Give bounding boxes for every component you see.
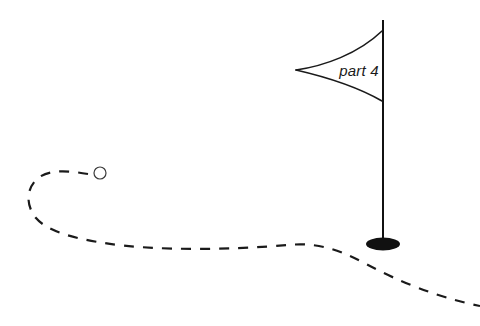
flag-label-text: part 4 (338, 62, 379, 79)
flag-base-ellipse (366, 238, 400, 251)
illustration-svg: part 4 (0, 0, 480, 326)
dashed-trajectory-path (29, 171, 480, 306)
illustration-canvas: part 4 (0, 0, 480, 326)
ball-circle-icon (94, 167, 106, 179)
